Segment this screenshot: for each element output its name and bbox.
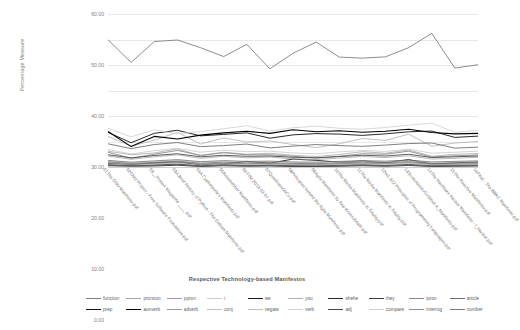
legend-item[interactable]: adj: [328, 307, 368, 312]
legend-swatch-icon: [450, 298, 465, 299]
legend-item[interactable]: we: [248, 296, 288, 301]
legend-label: ppron: [184, 296, 196, 301]
legend-swatch-icon: [86, 298, 101, 299]
legend-item[interactable]: ppron: [167, 296, 207, 301]
legend-label: auxverb: [143, 307, 160, 312]
legend-item[interactable]: ipron: [409, 296, 449, 301]
x-axis-title: Respective Technology-based Manifestos: [0, 276, 494, 282]
legend-label: function: [103, 296, 119, 301]
legend-swatch-icon: [248, 298, 263, 299]
legend-swatch-icon: [86, 309, 101, 310]
legend-item[interactable]: number: [450, 307, 490, 312]
series-line: [108, 143, 478, 149]
legend-item[interactable]: conj: [207, 307, 247, 312]
legend-item[interactable]: you: [288, 296, 328, 301]
y-axis-tick: 0.00: [94, 317, 104, 323]
x-axis-tick-label: 03__Plone4 Magazine ____.pdf: [148, 167, 193, 219]
x-axis-tick-label: 11The Media Manifesto in Totality.pdf: [357, 167, 408, 227]
legend-label: number: [467, 307, 483, 312]
legend-item[interactable]: verb: [288, 307, 328, 312]
x-axis-labels: 01The GNU Manifesto.pdf02GNU Project - F…: [108, 167, 478, 275]
legend-label: verb: [305, 307, 314, 312]
legend-label: prep: [103, 307, 112, 312]
legend-swatch-icon: [126, 309, 141, 310]
legend-row: prepauxverbadverbconjnegateverbadjcompar…: [86, 307, 490, 312]
legend-swatch-icon: [288, 298, 303, 299]
legend-swatch-icon: [167, 298, 182, 299]
x-axis-tick-label: 10The Media Manifesto in Totality.pdf: [333, 167, 385, 227]
legend-label: negate: [265, 307, 279, 312]
legend-label: article: [467, 296, 480, 301]
x-axis-tick-label: 15The Reactive Manifesto.pdf: [449, 167, 491, 216]
legend-swatch-icon: [369, 298, 384, 299]
legend-label: adj: [345, 307, 351, 312]
legend-label: you: [305, 296, 313, 301]
legend-swatch-icon: [328, 298, 343, 299]
series-line: [108, 130, 478, 143]
legend-item[interactable]: function: [86, 296, 126, 301]
plot-area: 0.0010.0020.0030.0040.0050.0060.00: [108, 14, 478, 167]
legend-item[interactable]: they: [369, 296, 409, 301]
legend-label: they: [386, 296, 395, 301]
legend-label: conj: [224, 307, 233, 312]
legend-item[interactable]: interrog: [409, 307, 449, 312]
legend-item[interactable]: shehe: [328, 296, 368, 301]
y-axis-tick: 40.00: [91, 113, 104, 119]
legend-label: interrog: [426, 307, 442, 312]
y-axis-tick: 50.00: [91, 62, 104, 68]
legend-label: ipron: [426, 296, 436, 301]
legend-item[interactable]: pronoun: [126, 296, 166, 301]
y-axis-tick: 20.00: [91, 215, 104, 221]
legend-item[interactable]: negate: [248, 307, 288, 312]
legend-label: we: [265, 296, 271, 301]
legend-row: functionpronounpproniweyoushehetheyipron…: [86, 296, 490, 301]
legend-item[interactable]: i: [207, 296, 247, 301]
legend-item[interactable]: article: [450, 296, 490, 301]
legend-swatch-icon: [369, 309, 384, 310]
legend-item[interactable]: auxverb: [126, 307, 166, 312]
legend-item[interactable]: adverb: [167, 307, 207, 312]
legend-swatch-icon: [207, 298, 222, 299]
legend-swatch-icon: [126, 298, 141, 299]
legend-label: pronoun: [143, 296, 160, 301]
legend-swatch-icon: [288, 309, 303, 310]
y-axis-title: Percentage Measure: [19, 10, 25, 120]
legend-label: shehe: [345, 296, 358, 301]
y-axis-tick: 10.00: [91, 266, 104, 272]
legend-label: adverb: [184, 307, 198, 312]
legend-swatch-icon: [409, 298, 424, 299]
legend-swatch-icon: [450, 309, 465, 310]
legend-swatch-icon: [328, 309, 343, 310]
series-line: [108, 33, 478, 68]
legend-label: compare: [386, 307, 404, 312]
legend-label: i: [224, 296, 225, 301]
legend-swatch-icon: [248, 309, 263, 310]
legend-swatch-icon: [207, 309, 222, 310]
legend-item[interactable]: compare: [369, 307, 409, 312]
legend-item[interactable]: prep: [86, 307, 126, 312]
legend-swatch-icon: [409, 309, 424, 310]
chart-legend: functionpronounpproniweyoushehetheyipron…: [86, 296, 490, 312]
x-axis-tick-label: 05Indiewebber Manifesto.pdf: [218, 167, 259, 214]
legend-swatch-icon: [167, 309, 182, 310]
x-axis-tick-label: 04A Cypherpunk's Manifesto.pdf: [195, 167, 240, 220]
x-axis-tick-label: 16Final - The BBKC Manifesto.pdf: [472, 167, 520, 222]
y-axis-tick: 60.00: [91, 11, 104, 17]
